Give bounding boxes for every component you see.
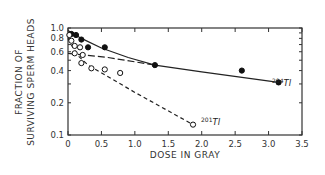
x-tick-label: 0 [65,139,70,149]
open-data-point [190,122,195,127]
open-data-point [80,52,85,57]
x-tick-label: 1.0 [128,139,142,149]
x-tick-label: 1.5 [162,139,176,149]
filled-data-point [73,32,78,37]
y-tick-label: 0.8 [50,33,64,43]
y-axis-title-line: SURVIVING SPERM HEADS [26,18,36,146]
y-axis-title-line: FRACTION OF [14,49,24,115]
open-data-point [89,66,94,71]
y-tick-label: 0.1 [50,130,64,140]
filled-data-point [239,68,244,73]
filled-data-point [79,37,84,42]
open-data-point [72,43,77,48]
x-tick-label: 2.5 [228,139,242,149]
x-axis-ticks: 00.51.01.52.02.53.03.5 [65,28,308,149]
open-data-point [72,51,77,56]
y-tick-label: 0.6 [50,47,64,57]
plot-frame [68,28,302,135]
x-tick-label: 2.0 [195,139,209,149]
series-label-204Tl: 204Tl [272,77,292,88]
y-axis-ticks: 0.10.20.40.60.81.0 [50,23,302,140]
x-axis-title: DOSE IN GRAY [150,150,220,160]
data-points [67,31,281,127]
y-tick-label: 0.4 [50,66,64,76]
x-tick-label: 3.5 [295,139,309,149]
fit-lines [68,30,279,124]
series-label-201Tl: 201Tl [201,116,221,127]
open-data-point [102,67,107,72]
y-axis-title: FRACTION OFSURVIVING SPERM HEADS [14,18,36,146]
filled-data-point [152,63,157,68]
y-tick-label: 0.2 [50,98,64,108]
open-data-point [79,60,84,65]
x-tick-label: 0.5 [95,139,109,149]
open-data-point [69,38,74,43]
survival-chart: FRACTION OFSURVIVING SPERM HEADS 00.51.0… [0,0,325,175]
plot-axes [68,28,302,135]
y-tick-label: 1.0 [50,23,64,33]
open-data-point [67,32,72,37]
x-tick-label: 3.0 [262,139,276,149]
open-data-point [77,45,82,50]
filled-data-point [102,45,107,50]
fit-line-201Tl [68,38,193,124]
filled-data-point [85,45,90,50]
open-data-point [118,70,123,75]
